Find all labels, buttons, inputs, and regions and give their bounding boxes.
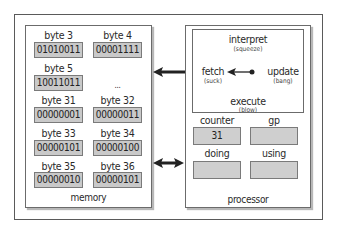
fetch-arrow-icon	[153, 67, 185, 77]
bidirectional-arrow-icon	[153, 158, 184, 168]
arrows-layer	[0, 0, 338, 232]
cycle-arrow-icon	[227, 68, 255, 76]
